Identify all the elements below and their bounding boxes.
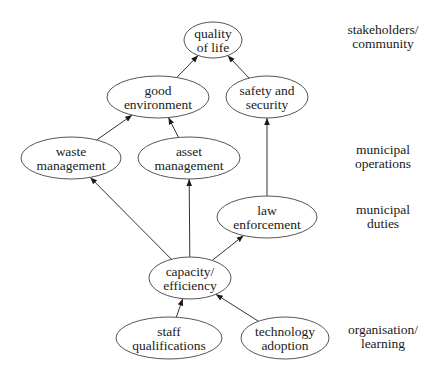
node-capacity: capacity/efficiency [149, 257, 231, 299]
node-label: qualifications [132, 338, 205, 353]
arrow-good_env-to-quality [177, 55, 198, 77]
cause-effect-diagram: qualityof lifegoodenvironmentsafety ands… [0, 0, 436, 377]
tier-label: duties [367, 216, 399, 231]
arrow-capacity-to-law [212, 236, 243, 261]
node-label: management [155, 158, 224, 173]
node-label: technology [255, 324, 315, 339]
arrow-capacity-to-waste [90, 177, 171, 259]
arrow-waste-to-good_env [97, 115, 132, 140]
node-tech: technologyadoption [241, 317, 329, 359]
tier-label: operations [355, 156, 411, 171]
tier-label: municipal [356, 202, 410, 217]
node-label: asset [176, 144, 202, 159]
node-label: safety and [239, 83, 294, 98]
node-label: efficiency [163, 278, 217, 293]
node-good_env: goodenvironment [107, 76, 209, 118]
node-label: good [145, 83, 172, 98]
node-law: lawenforcement [217, 196, 317, 238]
arrow-safety-to-quality [228, 56, 249, 79]
arrow-staff-to-capacity [176, 299, 182, 318]
node-label: capacity/ [166, 264, 215, 279]
nodes: qualityof lifegoodenvironmentsafety ands… [21, 22, 329, 359]
node-label: management [37, 158, 106, 173]
node-label: law [257, 203, 277, 218]
node-waste: wastemanagement [21, 137, 121, 179]
node-label: of life [197, 40, 230, 55]
node-staff: staffqualifications [116, 317, 222, 359]
arrow-asset-to-good_env [168, 118, 178, 138]
node-safety: safety andsecurity [226, 76, 308, 118]
node-asset: assetmanagement [138, 137, 240, 179]
tier-labels: stakeholders/communitymunicipaloperation… [347, 22, 418, 351]
arrow-capacity-to-asset [189, 179, 190, 257]
node-quality: qualityof life [184, 22, 242, 58]
arrow-tech-to-capacity [216, 294, 259, 321]
node-label: security [246, 97, 289, 112]
node-label: environment [124, 97, 192, 112]
tier-label: organisation/ [348, 322, 418, 337]
node-label: enforcement [233, 217, 301, 232]
node-label: waste [56, 144, 87, 159]
tier-label: municipal [356, 142, 410, 157]
tier-label: stakeholders/ [347, 22, 418, 37]
node-label: adoption [261, 338, 308, 353]
tier-label: learning [361, 336, 405, 351]
tier-label: community [352, 36, 414, 51]
node-label: quality [194, 26, 232, 41]
node-label: staff [157, 324, 181, 339]
